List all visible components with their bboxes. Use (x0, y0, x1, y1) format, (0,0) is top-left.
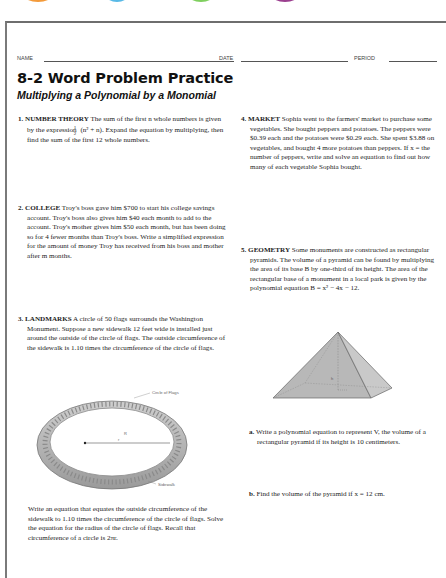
problem-heading: MARKET (248, 115, 280, 123)
problem-3-followup: Write an equation that equates the outsi… (28, 505, 228, 543)
pyramid-diagram: h (265, 325, 405, 410)
problem-4: 4. MARKET Sophia went to the farmers' ma… (241, 115, 441, 173)
problem-5-part-b: b. Find the volume of the pyramid if x =… (249, 490, 439, 500)
sidewalk-label: Sidewalk (158, 482, 176, 487)
problem-5: 5. GEOMETRY Some monuments are construct… (241, 246, 441, 294)
name-field[interactable] (44, 61, 234, 62)
orange-tab (20, 0, 56, 2)
date-field[interactable] (241, 61, 348, 62)
period-field[interactable] (389, 61, 437, 62)
flag-circle-diagram: R r Circle of Flags Sidewalk (30, 385, 200, 500)
top-color-tabs (0, 0, 446, 12)
problem-5-part-a: a. Write a polynomial equation to repres… (249, 428, 439, 447)
name-label: NAME (17, 55, 33, 61)
svg-text:R: R (124, 431, 127, 436)
problem-heading: NUMBER THEORY (25, 115, 89, 123)
date-label: DATE (219, 55, 233, 61)
problem-1: 1. NUMBER THEORY The sum of the first n … (18, 115, 228, 145)
problem-2: 2. COLLEGE Troy's boss gave him $700 to … (18, 204, 230, 262)
page-subtitle: Multiplying a Polynomial by a Monomial (17, 89, 216, 101)
problem-heading: LANDMARKS (25, 315, 72, 323)
period-label: PERIOD (354, 55, 375, 61)
problem-3: 3. LANDMARKS A circle of 50 flags surrou… (18, 315, 228, 353)
student-info-header: NAME DATE PERIOD (17, 53, 437, 65)
problem-heading: COLLEGE (25, 204, 60, 212)
green-tab (185, 0, 217, 2)
page-title: 8-2 Word Problem Practice (17, 70, 233, 86)
height-label: h (331, 376, 333, 381)
purple-tab (268, 0, 302, 2)
blue-tab (103, 0, 131, 2)
problem-heading: GEOMETRY (248, 246, 290, 254)
circle-of-flags-label: Circle of Flags (152, 390, 179, 395)
